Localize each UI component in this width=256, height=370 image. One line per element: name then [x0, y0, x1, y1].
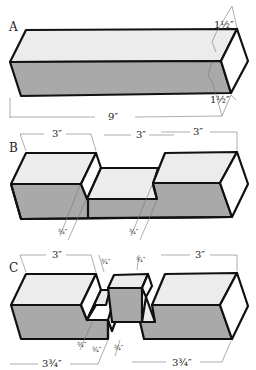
figure-b-left-length-label: 3″ — [52, 128, 62, 139]
figure-c-left-length-label: 3″ — [52, 249, 62, 260]
figure-c-right-front — [140, 305, 232, 339]
figure-b-notch-depth-left: ¾″ — [58, 228, 68, 236]
dim-extension — [91, 255, 96, 272]
figure-b-notch-depth-right: ¾″ — [129, 228, 139, 236]
dim-extension — [20, 134, 26, 151]
figure-a-length-label: 9″ — [108, 111, 118, 122]
figure-a-top-face — [10, 29, 237, 62]
woodworking-diagram: A 9″ 1½″ 1½″ B — [0, 0, 256, 370]
figure-c-mid-front — [108, 288, 142, 322]
figure-c-right-total-label: 3¾″ — [172, 357, 192, 368]
dim-line — [135, 116, 222, 117]
figure-a-front-face — [10, 61, 231, 96]
figure-a: A 9″ 1½″ 1½″ — [8, 6, 248, 122]
figure-c-tenon-c: ¾″ — [77, 341, 87, 349]
figure-a-label: A — [8, 20, 18, 34]
figure-c-label: C — [9, 261, 18, 275]
figure-c-tenon-b: ¾″ — [136, 256, 146, 264]
figure-c-tenon-a: ¾″ — [101, 258, 111, 266]
figure-c-tenon-d: ¾″ — [92, 346, 102, 354]
figure-a-height-label: 1½″ — [214, 19, 234, 30]
figure-c: C 3″ 3″ ¾″ ¾″ ¾″ ¾″ — [9, 249, 248, 369]
figure-b: B 3″ 3″ 3″ ¾″ ¾″ — [9, 126, 248, 240]
figure-b-right-length-label: 3″ — [193, 126, 203, 137]
figure-b-center-length-label: 3″ — [136, 129, 146, 140]
dim-extension — [222, 341, 231, 362]
figure-c-tenon-e: ¾″ — [114, 344, 124, 352]
dim-extension — [231, 95, 236, 100]
figure-c-left-total-label: 3¾″ — [42, 358, 62, 369]
figure-c-right-length-label: 3″ — [195, 249, 205, 260]
figure-b-label: B — [9, 141, 18, 155]
dim-extension — [20, 255, 26, 272]
dim-extension — [91, 134, 96, 151]
figure-a-depth-label: 1½″ — [210, 94, 230, 105]
